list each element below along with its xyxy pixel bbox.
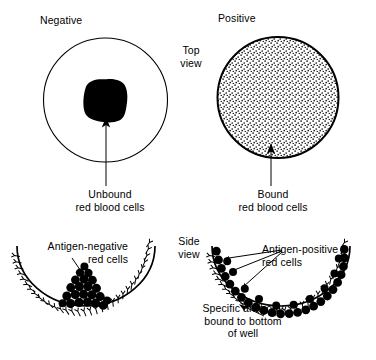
view-label-top: Top view [160,44,222,69]
panel-title-negative: Negative [40,14,130,27]
panel-title-positive: Positive [218,12,308,25]
caption-antigen-negative-red-cells: Antigen-negative red cells [6,240,128,265]
top-view-negative-well [44,38,168,186]
hemagglutination-assay-figure: Negative Positive Top view Side view Unb… [0,0,376,360]
caption-antigen-positive-red-cells: Antigen-positive red cells [262,243,374,268]
unbound-cell-pellet [83,79,127,122]
top-view-positive-well [218,37,339,186]
negative-unbound-cell-pellet [59,263,111,310]
caption-bound-red-blood-cells: Bound red blood cells [218,188,328,213]
view-label-side: Side view [158,235,220,260]
caption-unbound-red-blood-cells: Unbound red blood cells [55,188,165,213]
caption-specific-antibody: Specific antibody bound to bottom of wel… [186,302,300,340]
